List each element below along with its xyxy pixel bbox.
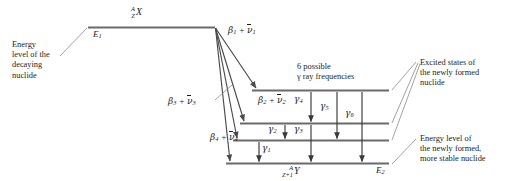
gamma-label-4: γ4 [294, 94, 303, 104]
beta-label-4: β4 + ν4 [210, 132, 238, 142]
gamma-label-2: γ2 [268, 124, 277, 134]
daughter-nuclide-mass-charge: A Z+1 [282, 165, 293, 178]
final-level-caption: Energy level of the newly formed, more s… [420, 134, 511, 165]
beta-label-1: β1 + ν1 [228, 25, 256, 35]
daughter-nuclide-letter: Y [293, 165, 299, 176]
leader-line-ground-caption [392, 139, 416, 164]
gamma-label-5: γ5 [320, 101, 329, 111]
beta-arrow-2 [216, 28, 245, 121]
daughter-energy-label: E2 [376, 165, 385, 175]
gamma-count-caption: 6 possible γ ray frequencies [297, 62, 407, 82]
left-caption: Energy level of the decaying nuclide [12, 40, 84, 81]
excited-states-caption: Excited states of the newly formed nucli… [420, 58, 510, 89]
gamma-label-1: γ1 [262, 143, 271, 153]
gamma-label-3: γ3 [294, 124, 303, 134]
daughter-nuclide-symbol: A Z+1 Y [282, 165, 300, 178]
beta-label-3: β3 + ν3 [168, 96, 196, 106]
parent-nuclide-letter: X [135, 6, 142, 17]
parent-energy-label: E1 [93, 29, 102, 39]
beta-label-2: β2 + ν2 [258, 95, 286, 105]
parent-nuclide-symbol: A Z X [131, 6, 142, 19]
gamma-label-6: γ6 [345, 108, 354, 118]
